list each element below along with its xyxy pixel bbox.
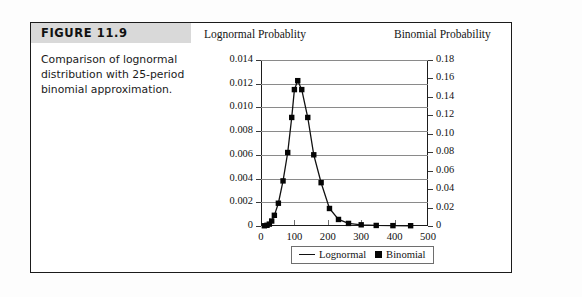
left-axis-tick-label: 0.012 [230,77,253,88]
figure-caption-text: Comparison of lognormal distribution wit… [31,52,191,98]
x-axis-tick-label: 200 [320,231,336,242]
left-axis-title: Lognormal Probablity [204,28,306,40]
legend-item-binomial: Binomial [375,249,425,260]
x-axis-tick-label: 100 [286,231,302,242]
plot-area: 00.0020.0040.0060.0080.0100.0120.014 00.… [261,60,428,226]
series-marker-binomial [311,152,316,157]
right-axis-tick [428,226,433,227]
series-marker-binomial [305,115,310,120]
series-marker-binomial [327,206,332,211]
series-marker-binomial [408,223,413,228]
series-marker-binomial [336,217,341,222]
left-axis-tick-label: 0.004 [230,172,253,183]
left-axis-tick [256,226,261,227]
figure-caption-block: FIGURE 11.9 Comparison of lognormal dist… [31,23,191,98]
series-marker-binomial [269,218,274,223]
series-marker-binomial [280,178,285,183]
series-marker-binomial [295,78,300,83]
chart-legend: Lognormal Binomial [291,246,434,264]
series-marker-binomial [276,201,281,206]
series-marker-binomial [374,223,379,228]
legend-square-swatch [375,251,382,258]
legend-line-swatch [299,254,315,256]
chart-container: Lognormal Probablity Binomial Probabilit… [196,28,506,268]
series-marker-binomial [292,87,297,92]
legend-item-lognormal: Lognormal [299,249,366,260]
series-marker-binomial [390,223,395,228]
right-axis-tick-label: 0 [436,219,441,230]
x-axis-tick-label: 300 [353,231,369,242]
left-axis-tick-label: 0.006 [230,148,253,159]
x-axis-tick-label: 400 [387,231,403,242]
figure-screenshot: FIGURE 11.9 Comparison of lognormal dist… [0,0,582,297]
x-axis-tick-label: 500 [420,231,436,242]
x-axis-tick-label: 0 [258,231,263,242]
series-marker-binomial [346,221,351,226]
series-marker-binomial [289,115,294,120]
series-marker-binomial [285,150,290,155]
legend-label-lognormal: Lognormal [319,249,366,260]
figure-label: FIGURE 11.9 [41,26,128,40]
left-axis-tick-label: 0.002 [230,195,253,206]
legend-label-binomial: Binomial [386,249,425,260]
right-axis-title: Binomial Probability [394,28,491,40]
figure-label-band: FIGURE 11.9 [31,23,191,43]
series-marker-binomial [318,180,323,185]
series-marker-binomial [299,87,304,92]
left-axis-tick-label: 0.014 [230,53,253,64]
left-axis-tick-label: 0.010 [230,100,253,111]
data-series-layer [261,60,561,210]
left-axis-tick-label: 0.008 [230,124,253,135]
series-marker-binomial [359,222,364,227]
series-marker-binomial [272,213,277,218]
left-axis-tick-label: 0 [248,219,253,230]
